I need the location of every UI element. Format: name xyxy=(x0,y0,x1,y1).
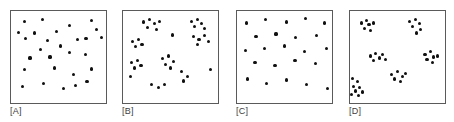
data-point xyxy=(436,54,439,57)
data-point xyxy=(150,83,153,86)
data-point xyxy=(274,32,277,35)
data-point xyxy=(285,20,288,23)
data-point xyxy=(163,83,166,86)
data-point xyxy=(384,58,387,61)
data-point xyxy=(197,38,200,41)
data-point xyxy=(314,62,317,65)
data-point xyxy=(196,43,199,46)
scatter-plot-c xyxy=(237,11,332,103)
data-point xyxy=(133,66,136,69)
data-point xyxy=(356,80,359,83)
data-point xyxy=(305,83,308,86)
data-point xyxy=(293,59,296,62)
data-point xyxy=(139,64,142,67)
data-point xyxy=(23,20,26,23)
data-point xyxy=(74,84,77,87)
scatter-plot-a xyxy=(11,11,106,103)
data-point xyxy=(157,86,160,89)
data-point xyxy=(76,38,79,41)
data-point xyxy=(95,28,98,31)
data-point xyxy=(28,56,31,59)
data-point xyxy=(130,61,133,64)
data-point xyxy=(414,18,417,21)
panel-label-b: [B] xyxy=(122,106,134,117)
data-point xyxy=(325,47,328,50)
data-point xyxy=(374,52,377,55)
data-point xyxy=(254,35,257,38)
data-point xyxy=(137,38,140,41)
data-point xyxy=(358,86,361,89)
data-point xyxy=(90,19,93,22)
data-point xyxy=(182,79,185,82)
scatter-plot-b xyxy=(123,11,218,103)
data-point xyxy=(72,73,75,76)
data-point xyxy=(367,23,370,26)
data-point xyxy=(357,94,360,97)
data-point xyxy=(294,36,297,39)
data-point xyxy=(423,53,426,56)
data-point xyxy=(148,18,151,21)
data-point xyxy=(48,55,51,58)
data-point xyxy=(41,18,44,21)
data-point xyxy=(153,22,156,25)
data-point xyxy=(381,53,384,56)
data-point xyxy=(432,55,435,58)
data-point xyxy=(369,54,372,57)
data-point xyxy=(68,51,71,54)
data-point xyxy=(203,34,206,37)
data-point xyxy=(431,61,434,64)
data-point xyxy=(155,28,158,31)
data-point xyxy=(273,64,276,67)
data-point xyxy=(390,73,393,76)
data-point xyxy=(142,20,145,23)
data-point xyxy=(253,61,256,64)
panel-frame-b xyxy=(122,10,219,104)
data-point xyxy=(24,37,27,40)
data-point xyxy=(167,54,170,57)
data-point xyxy=(33,31,36,34)
data-point xyxy=(350,93,353,96)
data-point xyxy=(55,30,58,33)
data-point xyxy=(129,75,132,78)
data-point xyxy=(418,22,421,25)
data-point xyxy=(351,77,354,80)
scatter-plot-d xyxy=(350,11,445,103)
data-point xyxy=(84,53,87,56)
panel-label-a: [A] xyxy=(10,106,22,117)
data-point xyxy=(21,85,24,88)
data-point xyxy=(171,33,174,36)
data-point xyxy=(415,31,418,34)
data-point xyxy=(140,43,143,46)
data-point xyxy=(100,36,103,39)
data-point xyxy=(246,77,249,80)
data-point xyxy=(84,37,87,40)
data-point xyxy=(203,27,206,30)
data-point xyxy=(283,44,286,47)
data-point xyxy=(369,29,372,32)
data-point xyxy=(200,22,203,25)
data-point xyxy=(196,18,199,21)
data-point xyxy=(158,20,161,23)
panel-label-c: [C] xyxy=(236,106,248,117)
data-point xyxy=(68,24,71,27)
data-point xyxy=(245,21,248,24)
data-point xyxy=(399,80,402,83)
data-point xyxy=(401,75,404,78)
data-point xyxy=(46,39,49,42)
data-point xyxy=(244,49,247,52)
panel-frame-a xyxy=(10,10,107,104)
data-point xyxy=(207,40,210,43)
data-point xyxy=(429,50,432,53)
data-point xyxy=(304,17,307,20)
data-point xyxy=(378,56,381,59)
data-point xyxy=(53,66,56,69)
panel-label-d: [D] xyxy=(349,106,361,117)
data-point xyxy=(264,18,267,21)
data-point xyxy=(265,82,268,85)
data-point xyxy=(352,85,355,88)
data-point xyxy=(190,20,193,23)
data-point xyxy=(372,21,375,24)
data-point xyxy=(17,31,20,34)
data-point xyxy=(419,28,422,31)
data-point xyxy=(42,82,45,85)
